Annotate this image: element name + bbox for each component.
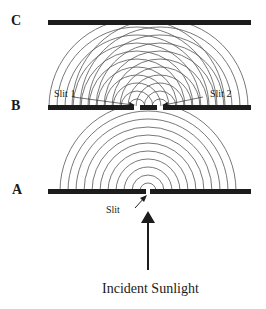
- screen-a-label: A: [12, 182, 22, 198]
- diffraction-waves: [60, 103, 236, 191]
- incident-sunlight-caption: Incident Sunlight: [102, 281, 199, 297]
- screen-b-bar: [48, 105, 251, 110]
- double-slit-diagram: [0, 0, 266, 309]
- screen-b-label: B: [11, 98, 20, 114]
- slit2-label: Slit 2: [210, 88, 231, 99]
- incident-arrow-icon: [141, 211, 155, 270]
- screen-c-label: C: [11, 13, 21, 29]
- slit1-label: Slit 1: [54, 88, 75, 99]
- slit-label: Slit: [106, 204, 120, 215]
- screen-c-bar: [48, 20, 251, 25]
- screen-a-bar: [48, 189, 251, 194]
